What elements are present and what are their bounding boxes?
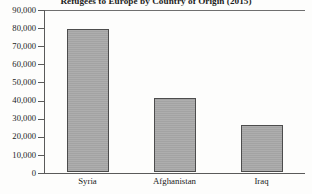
x-axis-label-iraq: Iraq [212,176,312,186]
x-axis-line [44,173,305,174]
x-axis-label-syria: Syria [38,176,138,186]
y-axis-tick [38,28,44,29]
chart-figure: Refugees to Europe by Country of Origin … [0,0,312,194]
y-axis-tick-label: 70,000 [0,42,36,51]
y-axis-tick-label: 30,000 [0,114,36,123]
y-axis-tick-label: 50,000 [0,78,36,87]
plot-area: 010,00020,00030,00040,00050,00060,00070,… [44,10,305,173]
bar-iraq [241,125,283,172]
y-axis-tick [38,46,44,47]
bar-afghanistan [154,98,196,172]
y-axis-tick [38,155,44,156]
y-axis-tick [38,82,44,83]
y-axis-tick [38,173,44,174]
y-axis-tick [38,64,44,65]
y-axis-tick [38,137,44,138]
y-axis-tick-label: 20,000 [0,132,36,141]
y-axis-tick [38,10,44,11]
y-axis-tick [38,101,44,102]
plot-top-border [44,10,305,11]
y-axis-tick-label: 40,000 [0,96,36,105]
y-axis-tick-label: 10,000 [0,151,36,160]
bar-syria [67,29,109,172]
y-axis-tick [38,119,44,120]
y-axis-line [44,10,45,174]
y-axis-tick-label: 60,000 [0,60,36,69]
chart-title: Refugees to Europe by Country of Origin … [0,0,312,6]
x-axis-label-afghanistan: Afghanistan [125,176,225,186]
y-axis-tick-label: 80,000 [0,24,36,33]
y-axis-tick-label: 0 [0,169,36,178]
y-axis-tick-label: 90,000 [0,6,36,15]
